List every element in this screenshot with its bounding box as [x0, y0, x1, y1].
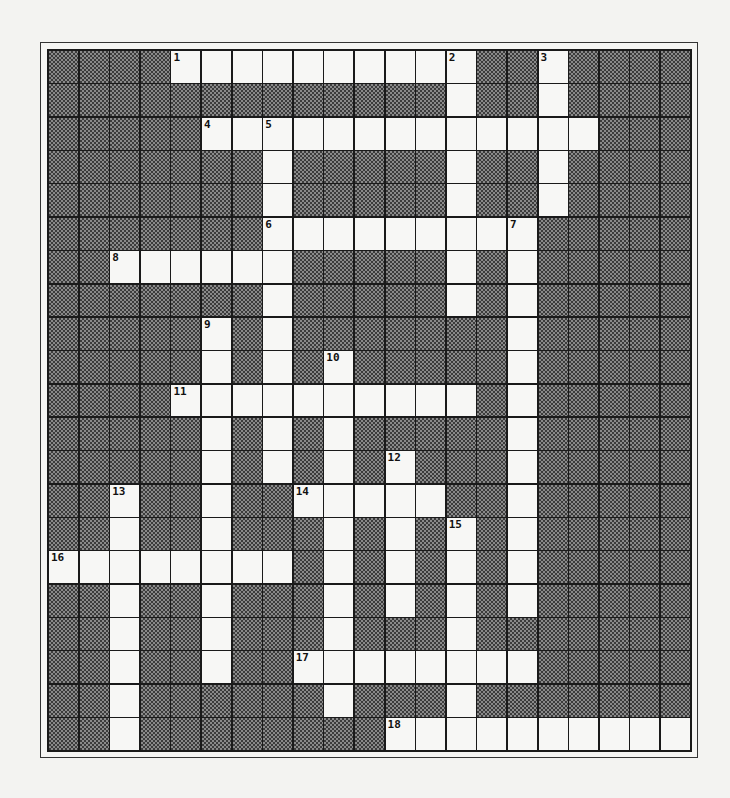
crossword-cell[interactable] [202, 251, 231, 283]
crossword-cell[interactable] [202, 451, 231, 483]
crossword-cell[interactable] [202, 651, 231, 683]
crossword-cell[interactable] [539, 151, 568, 183]
crossword-cell[interactable] [110, 518, 139, 550]
crossword-cell[interactable] [263, 184, 292, 216]
crossword-cell[interactable]: 5 [263, 118, 292, 150]
crossword-cell[interactable] [141, 551, 170, 583]
crossword-cell[interactable] [508, 118, 537, 150]
crossword-cell[interactable] [477, 218, 506, 250]
crossword-cell[interactable] [294, 51, 323, 83]
crossword-cell[interactable] [355, 485, 384, 517]
crossword-cell[interactable] [355, 118, 384, 150]
crossword-cell[interactable] [477, 718, 506, 750]
crossword-cell[interactable] [324, 685, 353, 717]
crossword-cell[interactable] [508, 318, 537, 350]
crossword-cell[interactable]: 9 [202, 318, 231, 350]
crossword-cell[interactable]: 16 [49, 551, 78, 583]
crossword-cell[interactable] [263, 285, 292, 317]
crossword-cell[interactable] [324, 51, 353, 83]
crossword-cell[interactable]: 17 [294, 651, 323, 683]
crossword-cell[interactable]: 13 [110, 485, 139, 517]
crossword-cell[interactable] [508, 351, 537, 383]
crossword-cell[interactable] [355, 385, 384, 417]
crossword-cell[interactable]: 12 [386, 451, 415, 483]
crossword-cell[interactable] [447, 651, 476, 683]
crossword-cell[interactable] [324, 385, 353, 417]
crossword-cell[interactable] [447, 285, 476, 317]
crossword-cell[interactable] [324, 451, 353, 483]
crossword-cell[interactable] [447, 551, 476, 583]
crossword-cell[interactable]: 8 [110, 251, 139, 283]
crossword-cell[interactable] [263, 385, 292, 417]
crossword-cell[interactable] [569, 118, 598, 150]
crossword-cell[interactable] [202, 551, 231, 583]
crossword-cell[interactable] [447, 618, 476, 650]
crossword-cell[interactable] [324, 418, 353, 450]
crossword-cell[interactable] [508, 718, 537, 750]
crossword-cell[interactable] [508, 518, 537, 550]
crossword-cell[interactable] [263, 51, 292, 83]
crossword-cell[interactable] [447, 151, 476, 183]
crossword-cell[interactable]: 7 [508, 218, 537, 250]
crossword-cell[interactable] [508, 551, 537, 583]
crossword-cell[interactable] [539, 118, 568, 150]
crossword-cell[interactable] [386, 585, 415, 617]
crossword-cell[interactable] [202, 618, 231, 650]
crossword-cell[interactable] [447, 685, 476, 717]
crossword-cell[interactable] [324, 518, 353, 550]
crossword-cell[interactable] [416, 651, 445, 683]
crossword-cell[interactable] [263, 318, 292, 350]
crossword-cell[interactable] [386, 218, 415, 250]
crossword-cell[interactable] [508, 451, 537, 483]
crossword-cell[interactable] [202, 485, 231, 517]
crossword-cell[interactable] [508, 251, 537, 283]
crossword-cell[interactable] [202, 418, 231, 450]
crossword-cell[interactable] [202, 385, 231, 417]
crossword-cell[interactable] [416, 718, 445, 750]
crossword-cell[interactable] [569, 718, 598, 750]
crossword-cell[interactable] [447, 218, 476, 250]
crossword-cell[interactable] [355, 651, 384, 683]
crossword-cell[interactable] [324, 218, 353, 250]
crossword-cell[interactable] [508, 418, 537, 450]
crossword-cell[interactable] [508, 585, 537, 617]
crossword-cell[interactable] [263, 251, 292, 283]
crossword-cell[interactable] [110, 551, 139, 583]
crossword-cell[interactable] [447, 251, 476, 283]
crossword-cell[interactable] [233, 385, 262, 417]
crossword-cell[interactable] [447, 718, 476, 750]
crossword-cell[interactable] [508, 285, 537, 317]
crossword-cell[interactable]: 18 [386, 718, 415, 750]
crossword-cell[interactable] [110, 651, 139, 683]
crossword-cell[interactable] [110, 585, 139, 617]
crossword-cell[interactable] [202, 518, 231, 550]
crossword-cell[interactable] [263, 351, 292, 383]
crossword-cell[interactable]: 4 [202, 118, 231, 150]
crossword-cell[interactable] [386, 651, 415, 683]
crossword-cell[interactable] [416, 118, 445, 150]
crossword-cell[interactable] [294, 118, 323, 150]
crossword-cell[interactable] [477, 651, 506, 683]
crossword-cell[interactable] [386, 51, 415, 83]
crossword-cell[interactable] [324, 551, 353, 583]
crossword-cell[interactable] [416, 218, 445, 250]
crossword-cell[interactable] [202, 585, 231, 617]
crossword-cell[interactable] [386, 551, 415, 583]
crossword-cell[interactable] [386, 385, 415, 417]
crossword-cell[interactable] [539, 84, 568, 116]
crossword-cell[interactable] [600, 718, 629, 750]
crossword-cell[interactable] [80, 551, 109, 583]
crossword-cell[interactable] [324, 485, 353, 517]
crossword-cell[interactable] [263, 551, 292, 583]
crossword-cell[interactable] [233, 251, 262, 283]
crossword-cell[interactable] [324, 118, 353, 150]
crossword-cell[interactable] [110, 718, 139, 750]
crossword-cell[interactable] [508, 385, 537, 417]
crossword-cell[interactable] [416, 385, 445, 417]
crossword-cell[interactable] [294, 385, 323, 417]
crossword-cell[interactable] [447, 118, 476, 150]
crossword-cell[interactable] [539, 718, 568, 750]
crossword-cell[interactable]: 2 [447, 51, 476, 83]
crossword-cell[interactable]: 10 [324, 351, 353, 383]
crossword-cell[interactable] [447, 184, 476, 216]
